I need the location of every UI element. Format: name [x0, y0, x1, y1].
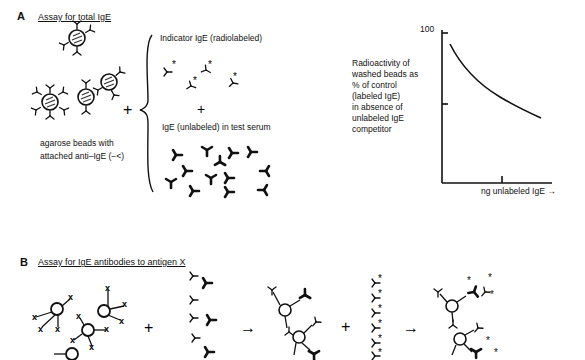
svg-text:*: * — [467, 275, 471, 286]
plus-sign: + — [123, 101, 132, 118]
svg-text:x: x — [119, 316, 124, 326]
svg-text:*: * — [233, 71, 237, 82]
graph-axes — [442, 30, 552, 183]
svg-text:x: x — [70, 335, 75, 345]
svg-text:x: x — [89, 342, 94, 352]
svg-text:*: * — [193, 75, 197, 86]
arrow-b1: → — [240, 319, 256, 336]
svg-text:*: * — [378, 333, 382, 344]
svg-text:x: x — [105, 283, 110, 293]
svg-text:*: * — [488, 272, 492, 283]
svg-text:*: * — [378, 347, 382, 358]
bound-complex-1 — [268, 287, 321, 360]
agarose-beads — [31, 21, 124, 119]
serum-antibodies — [190, 272, 216, 357]
diagram-drawing: + * * * * + — [0, 0, 585, 360]
svg-text:*: * — [486, 335, 490, 346]
curly-brace — [140, 35, 153, 192]
svg-text:*: * — [378, 273, 382, 284]
unlabeled-ige — [166, 147, 269, 197]
svg-text:*: * — [378, 303, 382, 314]
arrow-b2: → — [403, 319, 419, 336]
labeled-anti-ige: * * * * * * — [372, 273, 382, 360]
svg-text:*: * — [208, 59, 212, 70]
svg-text:*: * — [172, 59, 176, 70]
svg-text:x: x — [76, 311, 81, 321]
plus-sign-b1: + — [144, 319, 153, 336]
svg-text:*: * — [490, 289, 494, 300]
svg-text:*: * — [378, 318, 382, 329]
svg-text:x: x — [68, 292, 73, 302]
binding-curve — [450, 44, 541, 118]
antigen-beads: xxxx xxx xxxx — [32, 283, 127, 360]
svg-text:x: x — [32, 312, 37, 322]
svg-text:x: x — [104, 324, 109, 334]
final-complex: ** ** * — [434, 272, 498, 358]
svg-text:x: x — [55, 324, 60, 334]
plus-sign-b2: + — [341, 318, 350, 335]
svg-text:*: * — [494, 347, 498, 358]
radiolabeled-ige: * * * * — [164, 59, 239, 91]
svg-text:x: x — [122, 299, 127, 309]
svg-text:x: x — [38, 324, 43, 334]
svg-text:*: * — [378, 288, 382, 299]
plus-sign-2: + — [197, 101, 205, 117]
